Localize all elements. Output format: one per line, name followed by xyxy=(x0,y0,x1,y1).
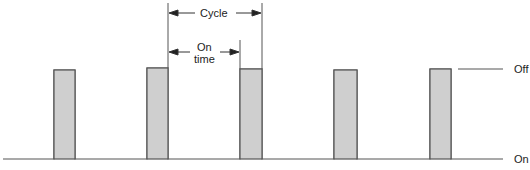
pulse-2 xyxy=(147,68,168,159)
pulse-5 xyxy=(430,69,451,159)
duty-cycle-diagram xyxy=(0,0,530,170)
pulse-4 xyxy=(334,70,357,159)
pulses xyxy=(54,68,451,159)
on-time-label-line1: On xyxy=(195,42,214,53)
pulse-1 xyxy=(54,70,75,159)
off-level-label: Off xyxy=(514,64,528,75)
on-time-label-line2: time xyxy=(192,54,217,65)
pulse-3 xyxy=(240,69,262,159)
cycle-label: Cycle xyxy=(198,8,230,19)
on-level-label: On xyxy=(514,154,529,165)
